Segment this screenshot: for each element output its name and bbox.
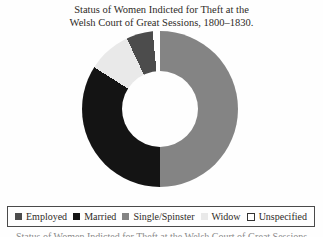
employed-swatch-icon bbox=[15, 213, 22, 220]
donut-hole bbox=[122, 71, 198, 147]
legend-item-label: Widow bbox=[212, 211, 241, 222]
chart-title-line-2: Welsh Court of Great Sessions, 1800–1830… bbox=[0, 16, 323, 29]
legend-item-employed: Employed bbox=[15, 211, 67, 222]
legend-item-label: Married bbox=[84, 211, 116, 222]
legend-item-unspecified: Unspecified bbox=[247, 211, 307, 222]
legend-item-married: Married bbox=[73, 211, 116, 222]
legend: Employed Married Single/Spinster Widow U… bbox=[7, 206, 315, 227]
figure-page: { "title": { "line1": "Status of Women I… bbox=[0, 0, 323, 237]
partial-caption: Status of Women Indicted for Theft at th… bbox=[0, 231, 323, 237]
married-swatch-icon bbox=[73, 213, 80, 220]
legend-item-label: Unspecified bbox=[259, 211, 307, 222]
legend-item-single-spinster: Single/Spinster bbox=[122, 211, 194, 222]
single-spinster-swatch-icon bbox=[122, 213, 129, 220]
legend-item-label: Single/Spinster bbox=[133, 211, 194, 222]
legend-item-label: Employed bbox=[26, 211, 67, 222]
donut-chart bbox=[82, 31, 238, 187]
chart-title: Status of Women Indicted for Theft at th… bbox=[0, 3, 323, 29]
unspecified-swatch-icon bbox=[247, 213, 255, 221]
widow-swatch-icon bbox=[201, 213, 208, 220]
chart-title-line-1: Status of Women Indicted for Theft at th… bbox=[0, 3, 323, 16]
legend-item-widow: Widow bbox=[201, 211, 241, 222]
